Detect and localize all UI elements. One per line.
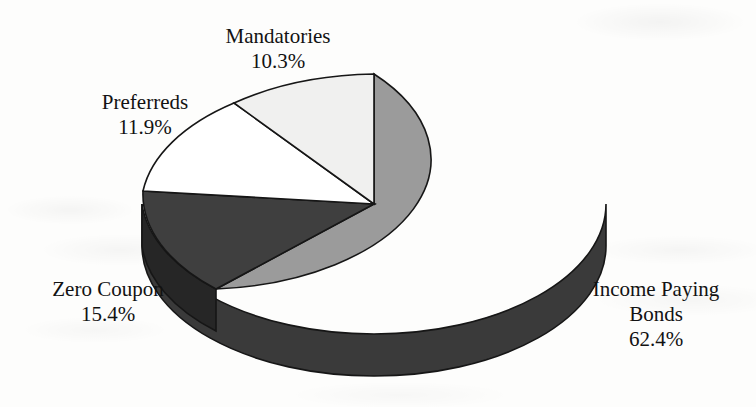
slice-label-income-paying-bonds-pct: 62.4% bbox=[556, 327, 756, 352]
slice-label-income-paying-bonds-name: Income Paying bbox=[593, 277, 720, 301]
slice-label-income-paying-bonds-name2: Bonds bbox=[556, 302, 756, 327]
slice-label-preferreds-name: Preferreds bbox=[102, 90, 188, 114]
slice-label-zero-coupon: Zero Coupon 15.4% bbox=[8, 277, 208, 327]
slice-label-income-paying-bonds: Income Paying Bonds 62.4% bbox=[556, 277, 756, 351]
slice-label-mandatories: Mandatories 10.3% bbox=[178, 24, 378, 74]
slice-label-zero-coupon-name: Zero Coupon bbox=[52, 277, 163, 301]
slice-label-preferreds: Preferreds 11.9% bbox=[50, 90, 240, 140]
slice-label-mandatories-name: Mandatories bbox=[226, 24, 331, 48]
slice-label-mandatories-pct: 10.3% bbox=[178, 49, 378, 74]
slice-label-zero-coupon-pct: 15.4% bbox=[8, 302, 208, 327]
pie-chart-figure: Mandatories 10.3% Preferreds 11.9% Zero … bbox=[0, 0, 756, 407]
slice-label-preferreds-pct: 11.9% bbox=[50, 115, 240, 140]
